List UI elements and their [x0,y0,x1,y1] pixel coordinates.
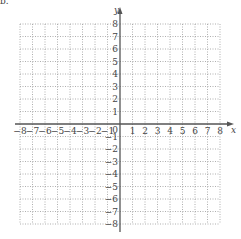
x-tick-label: −3 [76,126,90,136]
x-tick-label: 7 [205,126,211,136]
x-tick-label: 8 [217,126,223,136]
y-tick-label: 7 [112,32,118,42]
x-tick-label: 4 [167,126,173,136]
y-tick-label: 4 [112,69,118,79]
x-tick-label: −2 [88,126,101,136]
x-tick-label: −5 [51,126,65,136]
y-tick-label: 2 [112,94,118,104]
y-tick-label: 3 [112,82,118,92]
axes [15,7,234,232]
x-tick-label: −4 [63,126,77,136]
x-tick-label: −6 [38,126,52,136]
y-tick-label: −5 [105,182,119,192]
y-tick-label: −7 [105,207,119,217]
tick-labels: −8−7−6−5−4−3−2−112345678−8−7−6−5−4−3−2−1… [13,5,236,229]
x-tick-label: 6 [192,126,198,136]
coordinate-plane: −8−7−6−5−4−3−2−112345678−8−7−6−5−4−3−2−1… [0,0,241,239]
x-tick-label: −7 [26,126,40,136]
x-tick-label: −8 [13,126,27,136]
y-axis-label: y [113,5,120,15]
x-tick-label: 5 [180,126,186,136]
y-tick-label: 1 [112,107,118,117]
y-tick-label: 6 [112,44,118,54]
x-tick-label: 1 [130,126,136,136]
y-tick-label: −6 [105,194,119,204]
y-tick-label: −2 [105,144,118,154]
y-tick-label: −8 [105,219,119,229]
y-tick-label: 5 [112,57,118,67]
y-tick-label: −3 [105,157,119,167]
origin-label: 0 [112,125,118,135]
y-tick-label: −4 [105,169,119,179]
y-tick-label: 8 [112,19,118,29]
x-axis-label: x [231,125,236,135]
x-tick-label: 2 [142,126,148,136]
x-tick-label: 3 [155,126,161,136]
